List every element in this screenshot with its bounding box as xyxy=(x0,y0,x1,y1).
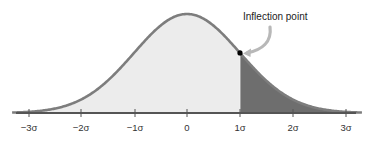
inflection-point-label: Inflection point xyxy=(243,11,308,22)
inflection-arrow xyxy=(243,27,270,57)
axis-tick-label: 0 xyxy=(184,122,189,133)
axis-tick-label: −1σ xyxy=(127,122,144,133)
axis-tick-label: −2σ xyxy=(73,122,90,133)
axis-tick-label: −3σ xyxy=(21,122,38,133)
axis-tick-label: 3σ xyxy=(340,122,351,133)
normal-distribution-diagram: −3σ−2σ−1σ01σ2σ3σ Inflection point xyxy=(0,0,369,143)
inflection-point-marker xyxy=(237,50,242,55)
axis-tick-label: 2σ xyxy=(287,122,298,133)
axis-tick-label: 1σ xyxy=(234,122,245,133)
